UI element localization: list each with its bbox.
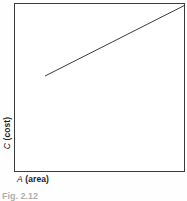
figure-container: A (area) C (cost) Fig. 2.12 [0,0,187,201]
plot-frame [14,3,185,172]
figure-caption: Fig. 2.12 [2,191,38,201]
y-axis-label: C (cost) [2,109,12,157]
y-axis-symbol: C [2,143,12,149]
plot-area [15,4,184,171]
y-axis-name: (cost) [2,117,12,141]
x-axis-label: A (area) [17,174,49,184]
data-line-cost-vs-area [45,6,184,76]
x-axis-name: (area) [25,174,49,184]
